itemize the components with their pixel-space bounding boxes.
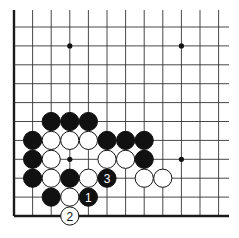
white-stone xyxy=(42,131,60,149)
white-stone xyxy=(154,169,172,187)
black-stone xyxy=(42,188,60,206)
black-stone xyxy=(117,131,135,149)
black-stone-disc xyxy=(61,112,79,130)
move-number: 3 xyxy=(104,172,111,186)
star-point xyxy=(179,43,184,48)
star-point xyxy=(67,43,72,48)
black-stone xyxy=(98,131,116,149)
white-stone-disc xyxy=(117,150,135,168)
white-stone xyxy=(135,169,153,187)
black-stone-move-3: 3 xyxy=(98,169,116,187)
black-stone-disc xyxy=(61,169,79,187)
black-stone xyxy=(23,131,41,149)
white-stone-disc xyxy=(42,169,60,187)
white-stone-disc xyxy=(79,131,97,149)
stones: 312 xyxy=(23,112,171,225)
white-stone xyxy=(79,169,97,187)
star-point xyxy=(67,157,72,162)
black-stone-disc xyxy=(42,188,60,206)
white-stone-disc xyxy=(154,169,172,187)
white-stone-disc xyxy=(61,131,79,149)
go-board: 312 xyxy=(0,0,239,238)
black-stone-disc xyxy=(98,131,116,149)
black-stone xyxy=(23,169,41,187)
white-stone-move-2: 2 xyxy=(61,207,79,225)
black-stone-disc xyxy=(79,112,97,130)
black-stone-disc xyxy=(42,112,60,130)
black-stone xyxy=(79,112,97,130)
black-stone-disc xyxy=(23,131,41,149)
white-stone-disc xyxy=(79,169,97,187)
black-stone-disc xyxy=(135,150,153,168)
black-stone xyxy=(42,112,60,130)
white-stone xyxy=(61,131,79,149)
black-stone-disc xyxy=(135,131,153,149)
black-stone-disc xyxy=(23,150,41,168)
white-stone-disc xyxy=(98,150,116,168)
white-stone-disc xyxy=(135,169,153,187)
move-number: 2 xyxy=(66,210,73,224)
white-stone xyxy=(98,150,116,168)
move-number: 1 xyxy=(85,191,92,205)
black-stone xyxy=(135,131,153,149)
black-stone-disc xyxy=(23,169,41,187)
white-stone-disc xyxy=(42,150,60,168)
black-stone xyxy=(61,169,79,187)
black-stone xyxy=(61,112,79,130)
white-stone xyxy=(42,150,60,168)
black-stone xyxy=(23,150,41,168)
black-stone xyxy=(135,150,153,168)
star-point xyxy=(179,157,184,162)
black-stone-disc xyxy=(117,131,135,149)
white-stone-disc xyxy=(61,188,79,206)
white-stone xyxy=(42,169,60,187)
white-stone-disc xyxy=(42,131,60,149)
black-stone-move-1: 1 xyxy=(79,188,97,206)
white-stone xyxy=(61,188,79,206)
white-stone xyxy=(79,131,97,149)
white-stone xyxy=(117,150,135,168)
